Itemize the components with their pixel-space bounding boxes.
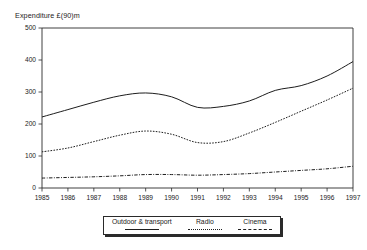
x-tick-label: 1986: [61, 194, 76, 201]
x-tick-label: 1994: [268, 194, 283, 201]
legend-item[interactable]: Radio: [188, 219, 222, 232]
series-line-radio: [42, 88, 353, 152]
legend-item-label: Outdoor & transport: [112, 219, 172, 226]
x-axis-ticks: 1985198619871988198919901991199219931994…: [35, 188, 361, 201]
x-tick-label: 1990: [164, 194, 179, 201]
data-series-group: [42, 62, 353, 178]
legend-swatch-dash-dot: [238, 229, 272, 232]
legend-swatch-dotted: [188, 229, 222, 232]
x-tick-label: 1995: [294, 194, 309, 201]
x-tick-label: 1985: [35, 194, 50, 201]
series-line-outdoor-transport: [42, 62, 353, 117]
plot-area: 0100200300400500 19851986198719881989199…: [0, 0, 367, 250]
legend-item[interactable]: Cinema: [238, 219, 272, 232]
y-tick-label: 500: [25, 24, 36, 31]
x-tick-label: 1988: [112, 194, 127, 201]
legend-item-label: Radio: [196, 219, 214, 226]
legend-item[interactable]: Outdoor & transport: [112, 219, 172, 232]
y-axis-ticks: 0100200300400500: [25, 24, 42, 191]
x-tick-label: 1987: [86, 194, 101, 201]
y-tick-label: 400: [25, 56, 36, 63]
legend-item-label: Cinema: [243, 219, 266, 226]
legend: Outdoor & transportRadioCinema: [103, 216, 281, 235]
legend-swatch-solid: [125, 229, 159, 232]
x-tick-label: 1991: [190, 194, 205, 201]
series-line-cinema: [42, 166, 353, 178]
y-tick-label: 0: [32, 184, 36, 191]
axis-frame: [42, 28, 353, 188]
x-tick-label: 1993: [242, 194, 257, 201]
y-tick-label: 200: [25, 120, 36, 127]
x-tick-label: 1996: [320, 194, 335, 201]
x-tick-label: 1992: [216, 194, 231, 201]
y-tick-label: 100: [25, 152, 36, 159]
x-tick-label: 1989: [138, 194, 153, 201]
y-tick-label: 300: [25, 88, 36, 95]
line-chart: Expenditure £(90)m 0100200300400500 1985…: [0, 0, 367, 250]
x-tick-label: 1997: [346, 194, 361, 201]
